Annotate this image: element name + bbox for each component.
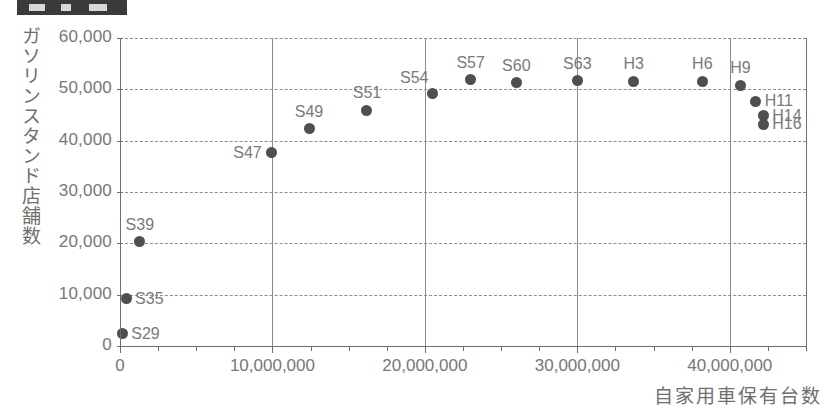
- y-gridline: [120, 192, 806, 193]
- x-tick-mark: [615, 347, 616, 351]
- data-point[interactable]: [758, 119, 769, 130]
- x-tick-mark: [234, 347, 235, 351]
- data-point-label: S47: [233, 144, 261, 162]
- y-tick-mark: [117, 243, 123, 244]
- data-point-label: S35: [135, 290, 163, 308]
- data-point[interactable]: [735, 80, 746, 91]
- y-tick-mark: [117, 38, 123, 39]
- data-point-label: S63: [563, 55, 591, 73]
- y-gridline: [120, 295, 806, 296]
- y-tick-mark: [117, 141, 123, 142]
- data-point[interactable]: [361, 105, 372, 116]
- data-point[interactable]: [427, 88, 438, 99]
- data-point[interactable]: [697, 76, 708, 87]
- y-tick-mark: [117, 295, 123, 296]
- y-axis-tick-labels: 010,00020,00030,00040,00050,00060,000: [0, 0, 112, 420]
- x-gridline: [730, 38, 731, 346]
- y-gridline: [120, 141, 806, 142]
- x-tick-mark: [539, 347, 540, 351]
- x-tick-mark: [654, 347, 655, 351]
- plot-area: S29S35S39S47S49S51S54S57S60S63H3H6H9H11H…: [120, 38, 806, 346]
- x-tick-label: 40,000,000: [687, 356, 772, 376]
- x-tick-label: 20,000,000: [382, 356, 467, 376]
- data-point[interactable]: [465, 74, 476, 85]
- x-tick-label: 10,000,000: [230, 356, 315, 376]
- data-point[interactable]: [511, 77, 522, 88]
- x-tick-mark: [577, 347, 578, 353]
- x-tick-mark: [501, 347, 502, 351]
- x-tick-mark: [463, 347, 464, 351]
- data-point-label: H16: [772, 115, 801, 133]
- x-tick-mark: [692, 347, 693, 351]
- data-point-label: S54: [400, 69, 428, 87]
- data-point[interactable]: [266, 147, 277, 158]
- data-point[interactable]: [750, 96, 761, 107]
- data-point[interactable]: [117, 328, 128, 339]
- y-tick-label: 60,000: [59, 27, 112, 47]
- x-tick-mark: [349, 347, 350, 351]
- y-gridline: [120, 38, 806, 39]
- data-point-label: H3: [624, 55, 644, 73]
- y-tick-label: 50,000: [59, 78, 112, 98]
- x-tick-mark: [806, 347, 807, 351]
- x-tick-label: 30,000,000: [535, 356, 620, 376]
- data-point-label: S57: [456, 54, 484, 72]
- y-gridline: [120, 89, 806, 90]
- x-tick-label: 0: [115, 356, 124, 376]
- x-tick-mark: [768, 347, 769, 351]
- y-tick-mark: [117, 89, 123, 90]
- x-tick-mark: [196, 347, 197, 351]
- data-point-label: S49: [295, 103, 323, 121]
- data-point-label: S51: [353, 84, 381, 102]
- data-point[interactable]: [572, 75, 583, 86]
- x-tick-mark: [425, 347, 426, 353]
- x-tick-mark: [120, 347, 121, 353]
- x-tick-mark: [311, 347, 312, 351]
- data-point-label: H6: [692, 55, 712, 73]
- y-tick-label: 20,000: [59, 232, 112, 252]
- x-gridline: [272, 38, 273, 346]
- y-tick-label: 40,000: [59, 130, 112, 150]
- data-point[interactable]: [304, 123, 315, 134]
- y-tick-label: 0: [102, 335, 112, 355]
- y-tick-label: 10,000: [59, 284, 112, 304]
- x-tick-mark: [387, 347, 388, 351]
- scatter-chart: ガソリンスタンド店舗数 010,00020,00030,00040,00050,…: [0, 0, 825, 420]
- data-point-label: S29: [131, 325, 159, 343]
- y-tick-mark: [117, 192, 123, 193]
- data-point[interactable]: [628, 76, 639, 87]
- plot-right-border: [806, 38, 807, 347]
- data-point-label: H9: [730, 59, 750, 77]
- x-axis-title: 自家用車保有台数: [654, 381, 822, 408]
- y-gridline: [120, 243, 806, 244]
- data-point-label: S39: [126, 216, 154, 234]
- data-point[interactable]: [134, 236, 145, 247]
- x-tick-mark: [272, 347, 273, 353]
- data-point-label: S60: [502, 57, 530, 75]
- x-tick-mark: [158, 347, 159, 351]
- y-tick-label: 30,000: [59, 181, 112, 201]
- x-tick-mark: [730, 347, 731, 353]
